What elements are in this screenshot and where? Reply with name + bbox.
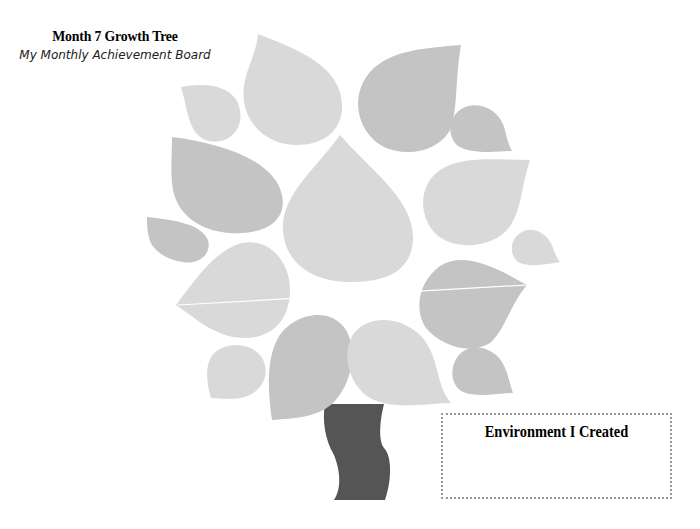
leaf[interactable] xyxy=(207,345,265,399)
leaf[interactable] xyxy=(181,85,240,142)
leaf[interactable] xyxy=(243,34,342,145)
environment-title: Environment I Created xyxy=(454,423,658,441)
leaf[interactable] xyxy=(283,135,413,282)
tree-trunk xyxy=(324,404,390,500)
leaf[interactable] xyxy=(512,230,560,265)
leaf[interactable] xyxy=(450,105,512,152)
leaf[interactable] xyxy=(452,347,513,394)
leaf[interactable] xyxy=(358,45,461,152)
environment-box[interactable]: Environment I Created xyxy=(441,413,672,499)
leaf[interactable] xyxy=(419,260,527,349)
leaf[interactable] xyxy=(171,137,282,233)
leaf[interactable] xyxy=(423,159,530,245)
